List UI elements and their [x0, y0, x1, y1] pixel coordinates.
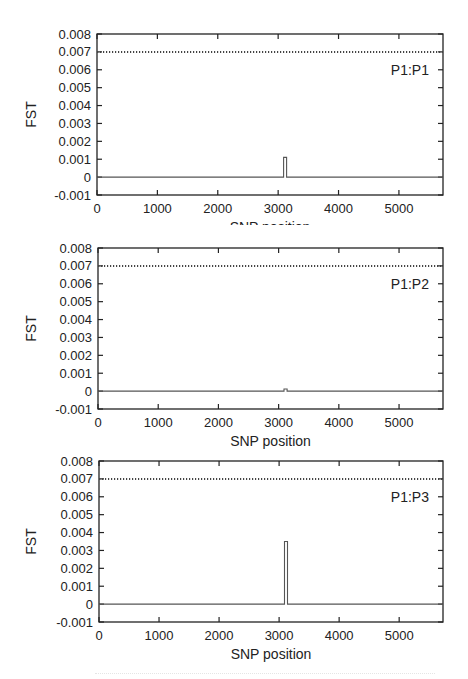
y-tick-label: 0.001 — [59, 366, 92, 381]
y-tick-label: 0.005 — [59, 294, 92, 309]
legend-label: P1:P3 — [391, 489, 429, 505]
legend-label: P1:P1 — [391, 62, 429, 78]
x-tick-label: 3000 — [264, 415, 293, 430]
y-tick-label: 0.006 — [58, 62, 91, 77]
y-tick-label: 0.003 — [59, 330, 92, 345]
x-tick-label: 5000 — [384, 201, 413, 216]
y-tick-label: 0 — [85, 384, 92, 399]
plot-frame — [98, 248, 443, 409]
fst-line — [97, 157, 443, 177]
x-tick-label: 1000 — [143, 201, 172, 216]
x-axis-title: SNP position — [230, 433, 311, 449]
x-tick-label: 2000 — [203, 201, 232, 216]
x-axis-title: SNP position — [231, 646, 312, 662]
chart-3: -0.00100.0010.0020.0030.0040.0050.0060.0… — [0, 450, 468, 679]
y-tick-label: 0.004 — [60, 525, 93, 540]
plot-frame — [99, 461, 443, 622]
x-tick-label: 1000 — [144, 415, 173, 430]
y-tick-label: 0.001 — [60, 579, 93, 594]
y-tick-label: 0 — [84, 170, 91, 185]
y-tick-label: 0.007 — [58, 44, 91, 59]
y-tick-label: 0.007 — [60, 471, 93, 486]
x-tick-label: 1000 — [145, 628, 174, 643]
y-tick-label: 0.002 — [58, 134, 91, 149]
y-tick-label: -0.001 — [55, 402, 92, 417]
fst-line — [99, 542, 443, 605]
y-tick-label: 0.008 — [58, 27, 91, 42]
y-tick-label: -0.001 — [56, 615, 93, 630]
y-tick-label: 0.007 — [59, 258, 92, 273]
x-tick-label: 3000 — [264, 201, 293, 216]
x-tick-label: 0 — [95, 628, 102, 643]
fst-line — [98, 389, 443, 391]
chart-1: -0.00100.0010.0020.0030.0040.0050.0060.0… — [0, 0, 468, 225]
y-tick-label: 0 — [86, 597, 93, 612]
chart-panel-1: -0.00100.0010.0020.0030.0040.0050.0060.0… — [0, 0, 468, 225]
y-tick-label: 0.003 — [58, 116, 91, 131]
chart-2: -0.00100.0010.0020.0030.0040.0050.0060.0… — [0, 225, 468, 450]
x-tick-label: 0 — [93, 201, 100, 216]
x-tick-label: 4000 — [324, 201, 353, 216]
x-tick-label: 5000 — [385, 415, 414, 430]
x-tick-label: 4000 — [325, 628, 354, 643]
x-tick-label: 3000 — [265, 628, 294, 643]
chart-panel-2: -0.00100.0010.0020.0030.0040.0050.0060.0… — [0, 225, 468, 450]
y-tick-label: 0.004 — [59, 312, 92, 327]
y-axis-title: FST — [23, 528, 39, 555]
y-tick-label: 0.002 — [59, 348, 92, 363]
y-tick-label: 0.001 — [58, 152, 91, 167]
y-axis-title: FST — [23, 315, 39, 342]
y-tick-label: 0.006 — [59, 276, 92, 291]
y-tick-label: 0.004 — [58, 98, 91, 113]
chart-panel-3: -0.00100.0010.0020.0030.0040.0050.0060.0… — [0, 450, 468, 679]
x-tick-label: 2000 — [204, 415, 233, 430]
y-tick-label: 0.008 — [59, 241, 92, 256]
x-tick-label: 5000 — [385, 628, 414, 643]
cut-off-caption — [95, 673, 435, 679]
y-tick-label: 0.005 — [60, 507, 93, 522]
x-tick-label: 4000 — [324, 415, 353, 430]
y-tick-label: -0.001 — [54, 188, 91, 203]
plot-frame — [97, 34, 443, 195]
y-axis-title: FST — [23, 101, 39, 128]
y-tick-label: 0.002 — [60, 561, 93, 576]
y-tick-label: 0.008 — [60, 454, 93, 469]
x-tick-label: 0 — [94, 415, 101, 430]
y-tick-label: 0.005 — [58, 80, 91, 95]
y-tick-label: 0.006 — [60, 489, 93, 504]
legend-label: P1:P2 — [391, 276, 429, 292]
y-tick-label: 0.003 — [60, 543, 93, 558]
x-tick-label: 2000 — [205, 628, 234, 643]
